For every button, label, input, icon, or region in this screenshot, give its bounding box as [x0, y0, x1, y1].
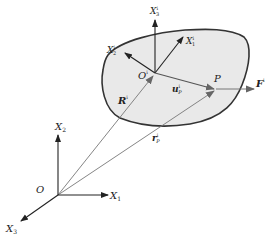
body-x3-label: Xi3: [149, 5, 159, 17]
body-x1-label: Xi1: [185, 35, 195, 47]
body-x2-label: Xi2: [106, 44, 116, 56]
global-x2-label: X2: [54, 121, 66, 133]
global-x3-axis: [21, 195, 58, 221]
point-P-label: P: [213, 73, 221, 84]
global-x3-label: X3: [5, 223, 17, 235]
global-x1-label: X1: [109, 190, 121, 202]
vector-rP-label: riP: [152, 132, 160, 144]
force-F-label: Fi: [255, 77, 265, 89]
diagram-canvas: O X2 X1 X3 Oi Xi3 Xi1 Xi2 Ri riP uiP Fi …: [0, 0, 272, 238]
body-coordinate-diagram: O X2 X1 X3 Oi Xi3 Xi1 Xi2 Ri riP uiP Fi …: [0, 0, 272, 238]
global-origin-label: O: [36, 184, 44, 195]
